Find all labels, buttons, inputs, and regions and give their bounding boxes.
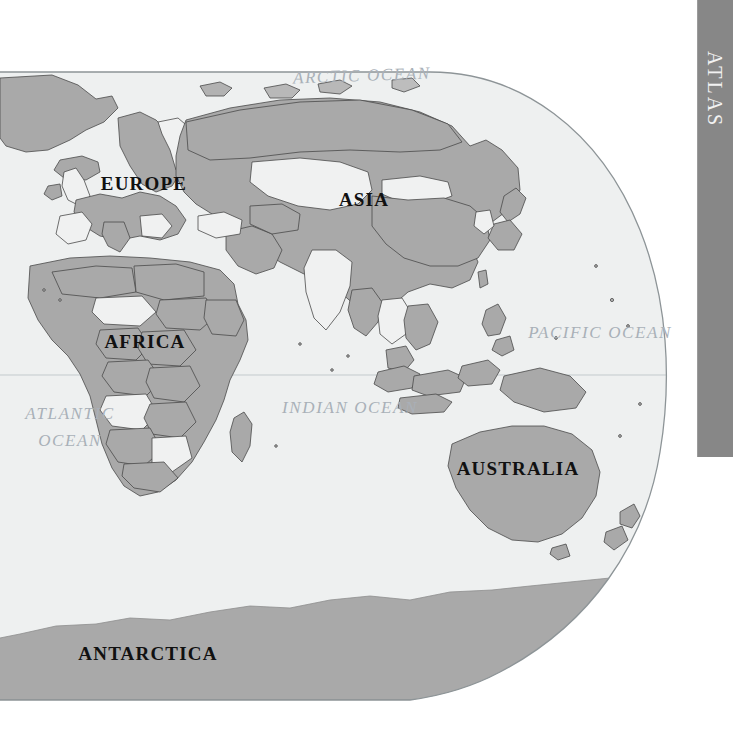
antarctica-label: ANTARCTICA: [78, 643, 217, 664]
land-islet-1: [610, 298, 613, 301]
pacific-ocean-label: PACIFIC OCEAN: [527, 323, 672, 342]
land-islet-9: [299, 343, 302, 346]
land-islet-12: [43, 289, 46, 292]
asia-label: ASIA: [339, 189, 389, 210]
land-islet-5: [619, 435, 622, 438]
land-africa-sahara-w: [52, 266, 136, 298]
indian-ocean-label: INDIAN OCEAN: [281, 398, 418, 417]
land-islet-7: [347, 355, 350, 358]
land-islet-11: [59, 299, 62, 302]
atlantic-ocean-label-line1: ATLANTIC: [24, 404, 115, 423]
land-africa-horn: [204, 300, 244, 336]
europe-label: EUROPE: [101, 173, 187, 194]
world-map-svg[interactable]: ARCTIC OCEAN PACIFIC OCEAN INDIAN OCEAN …: [0, 0, 700, 732]
atlas-tab-label: ATLAS: [697, 10, 733, 170]
atlas-page: ARCTIC OCEAN PACIFIC OCEAN INDIAN OCEAN …: [0, 0, 733, 732]
land-islet-10: [275, 445, 278, 448]
land-islet-4: [639, 403, 642, 406]
atlas-side-tab[interactable]: ATLAS: [697, 0, 733, 457]
australia-label: AUSTRALIA: [457, 458, 580, 479]
land-africa-sahara-e: [134, 264, 204, 300]
africa-label: AFRICA: [104, 331, 185, 352]
land-islet-8: [331, 369, 334, 372]
world-map[interactable]: ARCTIC OCEAN PACIFIC OCEAN INDIAN OCEAN …: [0, 0, 700, 732]
atlantic-ocean-label-line2: OCEAN: [38, 431, 102, 450]
land-islet-3: [595, 265, 598, 268]
